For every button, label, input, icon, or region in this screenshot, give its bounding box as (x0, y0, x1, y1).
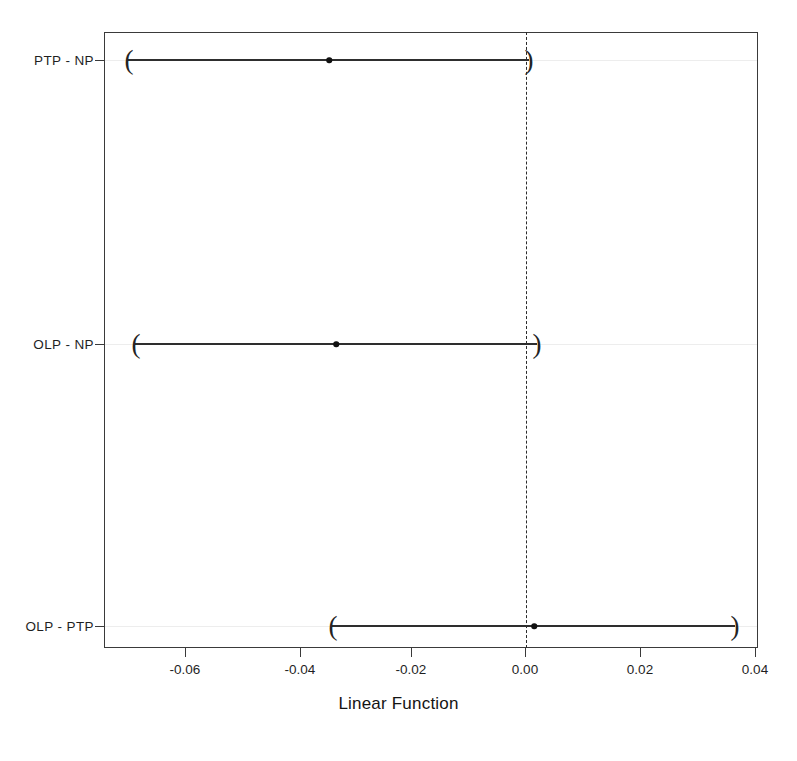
x-axis-tick-3 (411, 648, 412, 657)
figure-caption (22, 750, 772, 761)
ci-upper-bracket-ptp-np: ) (525, 47, 534, 74)
ci-lower-bracket-olp-ptp: ( (329, 613, 338, 640)
x-axis-tick-4 (525, 648, 526, 657)
y-axis-tick-olp-np (95, 344, 104, 345)
y-axis-label-olp-ptp: OLP - PTP (25, 619, 94, 634)
x-axis-tick-label-6: 0.04 (742, 662, 768, 677)
x-axis-tick-2 (300, 648, 301, 657)
ci-upper-bracket-olp-np: ) (533, 331, 542, 358)
zero-reference-line (526, 32, 527, 648)
x-axis-tick-label-1: -0.06 (170, 662, 201, 677)
x-axis-tick-label-4: 0.00 (512, 662, 538, 677)
ci-estimate-point-ptp-np (326, 57, 332, 63)
x-axis-tick-5 (640, 648, 641, 657)
ci-upper-bracket-olp-ptp: ) (731, 613, 740, 640)
ci-lower-bracket-olp-np: ( (132, 331, 141, 358)
figure-container: PTP - NP OLP - NP OLP - PTP ( ) ( ) ( ) … (0, 0, 797, 761)
ci-lower-bracket-ptp-np: ( (125, 47, 134, 74)
y-axis-tick-olp-ptp (95, 626, 104, 627)
ci-estimate-point-olp-ptp (531, 623, 537, 629)
x-axis-title: Linear Function (0, 694, 797, 714)
x-axis-tick-label-5: 0.02 (627, 662, 653, 677)
x-axis-tick-6 (755, 648, 756, 657)
plot-frame (104, 32, 758, 648)
ci-estimate-point-olp-np (333, 341, 339, 347)
x-axis-tick-label-2: -0.04 (285, 662, 316, 677)
y-axis-label-ptp-np: PTP - NP (34, 53, 94, 68)
x-axis-tick-1 (185, 648, 186, 657)
y-axis-label-olp-np: OLP - NP (33, 337, 94, 352)
y-axis-tick-ptp-np (95, 60, 104, 61)
x-axis-tick-label-3: -0.02 (396, 662, 427, 677)
